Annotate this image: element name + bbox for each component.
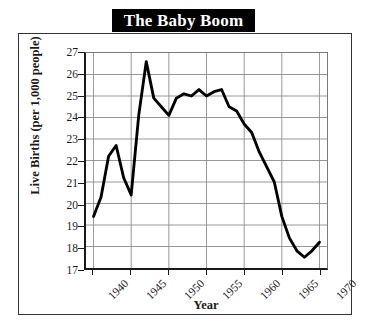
plot-area <box>84 52 328 270</box>
x-axis-tick-mark <box>168 270 169 275</box>
x-axis-label: Year <box>84 298 328 313</box>
x-axis-tick-label: 1970 <box>334 277 359 302</box>
x-axis-tick-mark <box>320 270 321 275</box>
chart-title: The Baby Boom <box>112 9 255 32</box>
data-line-series <box>86 53 327 268</box>
x-axis-tick-mark <box>244 270 245 275</box>
y-axis-tick-mark <box>78 248 84 249</box>
x-axis-tick-mark <box>206 270 207 275</box>
y-axis-tick-mark <box>78 270 84 271</box>
y-axis-tick-mark <box>78 117 84 118</box>
y-axis-tick-mark <box>78 52 84 53</box>
x-axis-tick-mark <box>282 270 283 275</box>
y-axis-tick-mark <box>78 96 84 97</box>
y-axis-tick-mark <box>78 139 84 140</box>
chart-figure: The Baby Boom Live Births (per 1,000 peo… <box>0 0 369 328</box>
x-axis-tick-mark <box>130 270 131 275</box>
data-line <box>94 62 320 258</box>
y-axis-tick-mark <box>78 74 84 75</box>
y-axis-tick-mark <box>78 205 84 206</box>
y-axis-tick-mark <box>78 183 84 184</box>
y-axis-tick-mark <box>78 161 84 162</box>
y-axis-tick-mark <box>78 226 84 227</box>
x-axis-tick-mark <box>92 270 93 275</box>
